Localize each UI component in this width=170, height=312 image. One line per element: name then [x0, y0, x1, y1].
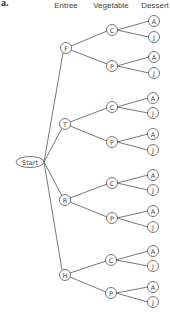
- entree-node: F: [61, 43, 72, 54]
- vegetable-label: C: [109, 257, 114, 265]
- dessert-node: J: [148, 222, 159, 233]
- dessert-node: A: [148, 93, 159, 104]
- dessert-label: A: [151, 284, 156, 292]
- vegetable-node: P: [106, 288, 117, 299]
- vegetable-label: P: [110, 139, 114, 147]
- dessert-label: J: [151, 187, 154, 195]
- edges: [44, 21, 149, 302]
- dessert-node: J: [148, 108, 159, 119]
- dessert-node: A: [149, 16, 160, 27]
- dessert-node: A: [148, 129, 159, 140]
- dessert-label: A: [151, 208, 156, 216]
- vegetable-node: C: [106, 255, 117, 266]
- entree-label: T: [62, 121, 67, 129]
- entree-node: T: [60, 119, 71, 130]
- dessert-node: A: [148, 282, 159, 293]
- vegetable-node: C: [107, 25, 118, 36]
- dessert-node: A: [148, 246, 159, 257]
- start-node: Start: [16, 157, 44, 168]
- dessert-label: J: [151, 299, 154, 307]
- dessert-label: A: [151, 131, 156, 139]
- dessert-node: J: [148, 297, 159, 308]
- vegetable-node: P: [107, 137, 118, 148]
- dessert-label: J: [151, 110, 154, 118]
- entree-label: H: [63, 272, 68, 280]
- vegetable-label: C: [110, 180, 115, 188]
- vegetable-label: P: [110, 63, 114, 71]
- dessert-label: A: [152, 18, 157, 26]
- dessert-node: A: [148, 206, 159, 217]
- dessert-label: J: [151, 224, 154, 232]
- dessert-label: A: [151, 95, 156, 103]
- vegetable-label: C: [110, 104, 115, 112]
- dessert-node: A: [149, 52, 160, 63]
- dessert-node: J: [149, 68, 160, 79]
- dessert-label: A: [151, 248, 156, 256]
- vegetable-node: C: [107, 178, 118, 189]
- dessert-label: A: [152, 54, 157, 62]
- entree-node: H: [60, 270, 71, 281]
- dessert-label: J: [151, 263, 154, 271]
- vegetable-label: P: [110, 215, 114, 223]
- vegetable-label: P: [109, 290, 113, 298]
- tree-diagram: a. Entree Vegetable Dessert: [0, 0, 170, 312]
- dessert-node: J: [148, 185, 159, 196]
- dessert-node: J: [149, 32, 160, 43]
- vegetable-node: C: [107, 102, 118, 113]
- dessert-label: A: [151, 172, 156, 180]
- dessert-label: J: [152, 70, 155, 78]
- dessert-node: A: [148, 170, 159, 181]
- dessert-node: J: [148, 261, 159, 272]
- vegetable-node: P: [107, 213, 118, 224]
- vegetable-label: C: [110, 27, 115, 35]
- entree-label: R: [63, 197, 68, 205]
- tree-svg: Start F T R H C P C P C P C P A J A J A …: [0, 0, 170, 312]
- start-label: Start: [22, 159, 38, 167]
- dessert-node: J: [148, 145, 159, 156]
- entree-label: F: [64, 45, 68, 53]
- dessert-label: J: [151, 147, 154, 155]
- entree-node: R: [60, 195, 71, 206]
- vegetable-node: P: [107, 61, 118, 72]
- dessert-label: J: [152, 34, 155, 42]
